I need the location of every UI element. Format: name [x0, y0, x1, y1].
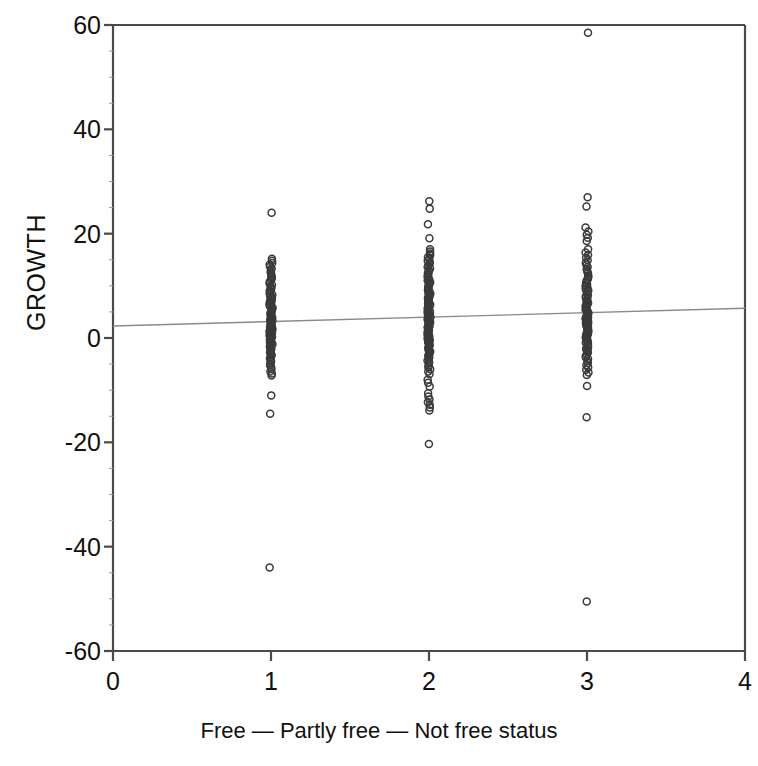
- data-point: [583, 203, 590, 210]
- data-points-layer: [266, 29, 592, 605]
- data-point: [426, 235, 433, 242]
- scatter-plot-figure: -60-40-200204060 01234 GROWTH Free — Par…: [0, 0, 758, 766]
- plot-canvas: [0, 0, 758, 766]
- data-point: [583, 414, 590, 421]
- data-point: [268, 392, 275, 399]
- data-point: [583, 598, 590, 605]
- data-point: [267, 410, 274, 417]
- data-point: [584, 382, 591, 389]
- data-point: [268, 209, 275, 216]
- y-axis-title: GROWTH: [22, 193, 51, 353]
- x-axis-title: Free — Partly free — Not free status: [0, 718, 758, 744]
- data-point: [426, 198, 433, 205]
- data-point: [424, 221, 431, 228]
- data-point: [426, 205, 433, 212]
- data-point: [584, 194, 591, 201]
- data-point: [425, 440, 432, 447]
- data-point: [585, 29, 592, 36]
- data-point: [266, 564, 273, 571]
